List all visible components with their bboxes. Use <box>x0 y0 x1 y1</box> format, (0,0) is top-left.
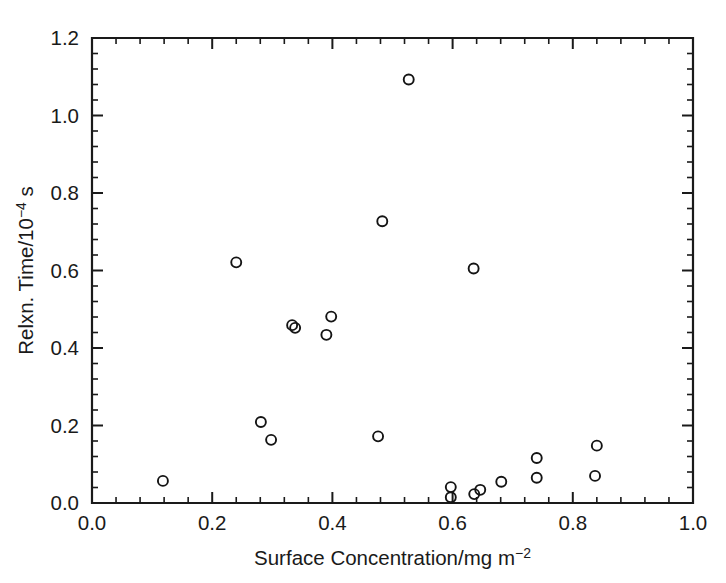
data-point <box>321 330 331 340</box>
data-point <box>377 216 387 226</box>
x-tick-label: 0.8 <box>559 511 588 534</box>
y-tick-label: 0.6 <box>51 259 80 282</box>
data-point <box>446 492 456 502</box>
x-axis-tick-labels: 0.00.20.40.60.81.0 <box>78 511 708 534</box>
data-point <box>446 482 456 492</box>
x-axis-title: Surface Concentration/mg m−2 <box>254 545 531 569</box>
data-point <box>266 435 276 445</box>
y-tick-label: 1.2 <box>51 26 80 49</box>
data-point <box>287 320 297 330</box>
y-tick-label: 0.8 <box>51 181 80 204</box>
plot-canvas: 0.00.20.40.60.81.0 0.00.20.40.60.81.01.2… <box>0 0 726 583</box>
data-point <box>404 74 414 84</box>
y-tick-label: 1.0 <box>51 104 80 127</box>
data-point <box>592 441 602 451</box>
x-tick-label: 1.0 <box>679 511 708 534</box>
data-point-markers <box>158 74 602 502</box>
y-tick-label: 0.0 <box>51 491 80 514</box>
y-axis-title: Relxn. Time/10−4 s <box>13 186 37 355</box>
data-point <box>256 417 266 427</box>
data-point <box>532 473 542 483</box>
data-point <box>326 312 336 322</box>
data-point <box>290 323 300 333</box>
data-point <box>231 257 241 267</box>
axes-frame <box>92 38 693 503</box>
data-point <box>496 477 506 487</box>
axis-ticks <box>92 38 693 503</box>
data-point <box>373 431 383 441</box>
x-tick-label: 0.4 <box>318 511 347 534</box>
data-point <box>158 476 168 486</box>
x-tick-label: 0.2 <box>198 511 227 534</box>
plot-axes <box>92 38 693 503</box>
data-point <box>590 471 600 481</box>
data-point <box>469 264 479 274</box>
y-tick-label: 0.4 <box>51 336 80 359</box>
x-tick-label: 0.6 <box>438 511 467 534</box>
y-tick-label: 0.2 <box>51 414 80 437</box>
y-axis-tick-labels: 0.00.20.40.60.81.01.2 <box>51 26 80 514</box>
scatter-plot-figure: 0.00.20.40.60.81.0 0.00.20.40.60.81.01.2… <box>0 0 726 583</box>
data-point <box>532 453 542 463</box>
x-tick-label: 0.0 <box>78 511 107 534</box>
